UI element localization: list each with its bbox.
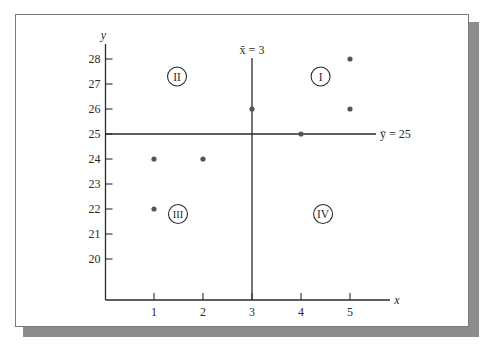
y-tick-label: 26	[89, 102, 101, 116]
data-point	[298, 131, 303, 136]
y-tick-label: 22	[89, 202, 101, 216]
data-point	[347, 56, 352, 61]
x-tick-label: 5	[347, 305, 353, 319]
x-tick-label: 1	[151, 305, 157, 319]
y-tick-label: 20	[89, 252, 101, 266]
reference-lines: x̄ = 3ȳ = 25	[106, 43, 411, 300]
axes: yx	[100, 28, 401, 307]
y-tick-label: 23	[89, 177, 101, 191]
ticks: 20212223242526272812345	[89, 52, 354, 319]
x-tick-label: 3	[249, 305, 255, 319]
data-point	[200, 156, 205, 161]
quadrant-label: III	[173, 209, 184, 220]
x-tick-label: 4	[298, 305, 304, 319]
x-mean-label: x̄ = 3	[240, 43, 265, 57]
y-tick-label: 21	[89, 227, 101, 241]
scatter-plot: yx 20212223242526272812345 x̄ = 3ȳ = 25 …	[0, 0, 494, 353]
x-axis-label: x	[393, 293, 400, 307]
chart-stage: yx 20212223242526272812345 x̄ = 3ȳ = 25 …	[0, 0, 494, 353]
data-point	[151, 156, 156, 161]
y-tick-label: 25	[89, 127, 101, 141]
y-tick-label: 27	[89, 77, 101, 91]
data-point	[249, 106, 254, 111]
y-tick-label: 24	[89, 152, 101, 166]
data-point	[347, 106, 352, 111]
quadrant-label: I	[319, 71, 323, 83]
data-point	[151, 206, 156, 211]
y-mean-label: ȳ = 25	[380, 127, 411, 141]
quadrant-label: II	[173, 71, 181, 83]
x-tick-label: 2	[200, 305, 206, 319]
quadrant-label: IV	[317, 208, 330, 220]
quadrant-labels: IIIIIIIV	[168, 67, 333, 224]
y-axis-label: y	[100, 28, 107, 42]
y-tick-label: 28	[89, 52, 101, 66]
